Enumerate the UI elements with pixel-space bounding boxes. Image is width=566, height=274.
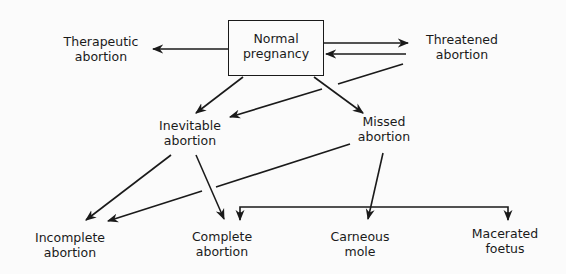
node-normal-line2: pregnancy <box>243 46 309 61</box>
node-incomplete-abortion: Incomplete abortion <box>35 230 105 260</box>
arrow-missed-to-carneous <box>368 153 383 219</box>
arrow-inevitable-to-complete <box>196 155 224 219</box>
node-complete-line2: abortion <box>192 244 252 259</box>
node-inevitable-abortion: Inevitable abortion <box>159 118 221 148</box>
node-carneous-line2: mole <box>330 244 389 259</box>
arrow-missed-to-incomplete-b <box>108 191 202 221</box>
node-missed-abortion: Missed abortion <box>358 114 410 144</box>
node-inevitable-line2: abortion <box>159 133 221 148</box>
node-therapeutic-abortion: Therapeutic abortion <box>64 34 139 64</box>
arrow-threatened-to-inevitable-a <box>338 64 403 84</box>
node-therapeutic-line2: abortion <box>64 49 139 64</box>
node-complete-line1: Complete <box>192 229 252 244</box>
node-missed-line2: abortion <box>358 129 410 144</box>
node-incomplete-line2: abortion <box>35 245 105 260</box>
arrow-inevitable-to-incomplete <box>86 155 171 220</box>
node-carneous-mole: Carneous mole <box>330 229 389 259</box>
arrow-normal-to-missed <box>314 77 363 113</box>
node-normal-line1: Normal <box>243 31 309 46</box>
arrow-threatened-to-inevitable-b <box>230 89 322 117</box>
node-macerated-line1: Macerated <box>472 226 538 241</box>
arrow-normal-to-inevitable <box>196 77 243 113</box>
bracket-complete-macerated <box>240 207 508 219</box>
node-inevitable-line1: Inevitable <box>159 118 221 133</box>
node-macerated-foetus: Macerated foetus <box>472 226 538 256</box>
node-threatened-abortion: Threatened abortion <box>426 32 498 62</box>
node-threatened-line1: Threatened <box>426 32 498 47</box>
node-incomplete-line1: Incomplete <box>35 230 105 245</box>
node-threatened-line2: abortion <box>426 47 498 62</box>
arrow-missed-to-incomplete-a <box>216 144 350 187</box>
node-carneous-line1: Carneous <box>330 229 389 244</box>
node-normal-pregnancy: Normal pregnancy <box>243 31 309 61</box>
abortion-flow-diagram: Normal pregnancy Therapeutic abortion Th… <box>0 0 566 274</box>
node-macerated-line2: foetus <box>472 241 538 256</box>
node-missed-line1: Missed <box>358 114 410 129</box>
node-therapeutic-line1: Therapeutic <box>64 34 139 49</box>
node-complete-abortion: Complete abortion <box>192 229 252 259</box>
